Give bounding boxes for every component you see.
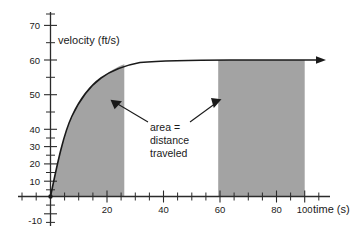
y-axis-label: velocity (ft/s) bbox=[58, 34, 120, 46]
y-tick-label-neg10: -10 bbox=[28, 215, 42, 226]
origin-point bbox=[48, 194, 52, 198]
y-tick-label-60: 60 bbox=[29, 55, 40, 66]
chart-svg: 70 60 50 40 30 20 10 -10 bbox=[0, 0, 362, 240]
x-axis-label: time (s) bbox=[313, 203, 350, 215]
shaded-region-first-area bbox=[51, 64, 125, 196]
curve-arrowhead-icon bbox=[316, 56, 326, 63]
x-tick-label-20: 20 bbox=[102, 204, 113, 215]
y-tick-label-40: 40 bbox=[29, 124, 40, 135]
y-tick-label-30: 30 bbox=[29, 141, 40, 152]
x-tick-label-80: 80 bbox=[271, 204, 282, 215]
annotation-line-2: distance bbox=[150, 134, 189, 146]
y-tick-label-70: 70 bbox=[29, 20, 40, 31]
annotation-line-1: area = bbox=[150, 121, 180, 133]
velocity-time-chart: 70 60 50 40 30 20 10 -10 bbox=[0, 0, 362, 240]
x-tick-label-100: 100 bbox=[297, 204, 313, 215]
y-tick-label-20: 20 bbox=[29, 158, 40, 169]
x-tick-label-60: 60 bbox=[215, 204, 226, 215]
y-tick-label-10: 10 bbox=[29, 176, 40, 187]
x-tick-label-40: 40 bbox=[158, 204, 169, 215]
leader-line-right bbox=[190, 103, 216, 122]
annotation-line-3: traveled bbox=[150, 147, 188, 159]
y-tick-label-50: 50 bbox=[29, 89, 40, 100]
shaded-region-second-area bbox=[218, 60, 305, 197]
